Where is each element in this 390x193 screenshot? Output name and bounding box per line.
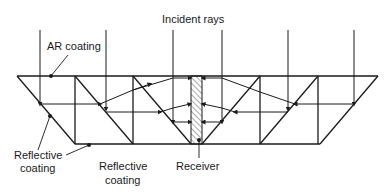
facet-left-1 [17, 76, 75, 144]
label-incident-rays: Incident rays [162, 13, 224, 26]
facet-left-2 [75, 76, 133, 144]
facet-left-3 [133, 76, 191, 144]
reflected-rays-left [40, 78, 190, 122]
facet-right-2 [260, 76, 318, 144]
callouts [38, 55, 201, 158]
facet-right-1 [202, 76, 260, 144]
label-receiver: Receiver [176, 160, 219, 173]
reflective-coating-leader-left [38, 116, 50, 150]
ar-coating-leader [51, 55, 68, 76]
reflective-coating-leader-bottom [66, 145, 89, 155]
label-reflective-coating-left-1: Reflective [14, 149, 62, 162]
label-reflective-coating-bottom-1: Reflective [99, 160, 147, 173]
label-ar-coating: AR coating [47, 40, 101, 53]
label-reflective-coating-bottom-2: coating [105, 174, 140, 187]
concentrator-diagram: Incident rays AR coating Reflective coat… [0, 0, 390, 193]
label-reflective-coating-left-2: coating [20, 162, 55, 175]
receiver [191, 76, 202, 144]
facet-right-3 [320, 76, 378, 144]
